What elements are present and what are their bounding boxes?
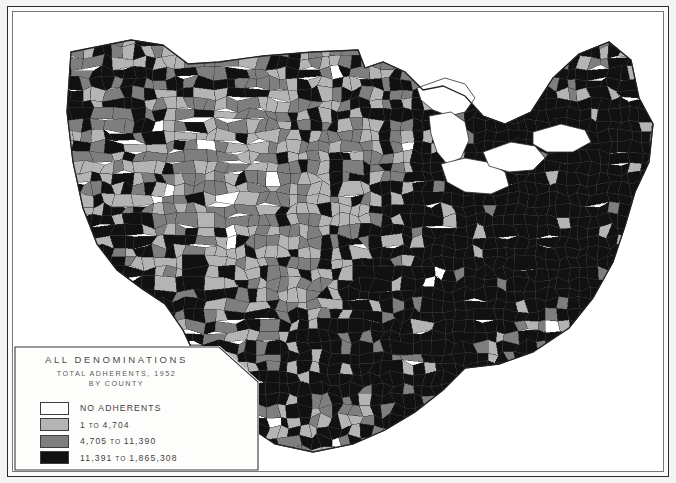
- county-polygon: [580, 308, 591, 324]
- county-polygon: [505, 35, 519, 47]
- county-polygon: [122, 212, 143, 224]
- county-polygon: [104, 276, 115, 293]
- county-polygon: [628, 392, 644, 405]
- county-polygon: [410, 45, 426, 59]
- county-polygon: [650, 402, 662, 417]
- county-polygon: [639, 203, 653, 218]
- county-polygon: [640, 444, 653, 457]
- county-polygon: [349, 33, 364, 48]
- county-polygon: [473, 382, 488, 397]
- county-polygon: [162, 319, 187, 335]
- county-polygon: [639, 181, 653, 196]
- county-polygon: [421, 33, 435, 49]
- county-polygon: [579, 449, 591, 458]
- county-polygon: [517, 55, 528, 69]
- county-polygon: [639, 300, 653, 310]
- county-polygon: [79, 239, 93, 251]
- county-polygon: [570, 413, 577, 427]
- county-polygon: [433, 181, 445, 192]
- county-polygon: [475, 434, 487, 448]
- county-polygon: [430, 244, 442, 257]
- county-polygon: [400, 57, 414, 70]
- county-polygon: [556, 413, 571, 428]
- county-polygon: [524, 371, 540, 387]
- county-polygon: [421, 437, 436, 449]
- county-polygon: [587, 342, 598, 354]
- county-polygon: [297, 119, 311, 130]
- county-polygon: [650, 449, 662, 458]
- county-polygon: [628, 363, 641, 374]
- county-polygon: [453, 425, 465, 440]
- county-polygon: [411, 445, 422, 459]
- county-polygon: [617, 339, 632, 354]
- county-polygon: [504, 383, 518, 397]
- county-polygon: [436, 417, 445, 429]
- county-polygon: [142, 276, 155, 291]
- county-polygon: [431, 54, 446, 70]
- legend-swatch-mid: [40, 435, 69, 448]
- county-polygon: [487, 434, 498, 447]
- county-polygon: [174, 55, 185, 70]
- legend-low-max: 4,704: [103, 420, 130, 430]
- county-polygon: [59, 318, 83, 334]
- county-polygon: [628, 373, 642, 386]
- county-polygon: [514, 101, 526, 112]
- county-polygon: [611, 445, 623, 460]
- county-polygon: [536, 69, 548, 81]
- county-polygon: [619, 35, 628, 50]
- legend-label-no-adherents: NO ADHERENTS: [80, 403, 162, 413]
- county-polygon: [463, 393, 473, 409]
- county-polygon: [257, 33, 270, 49]
- county-polygon: [443, 54, 454, 70]
- county-polygon: [628, 37, 651, 45]
- county-polygon: [640, 247, 653, 259]
- county-polygon: [555, 204, 570, 218]
- county-polygon: [565, 363, 579, 376]
- county-polygon: [649, 234, 661, 249]
- county-polygon: [298, 247, 311, 259]
- county-polygon: [123, 332, 134, 343]
- county-polygon: [464, 437, 476, 449]
- county-polygon: [568, 437, 580, 451]
- county-polygon: [649, 289, 663, 300]
- county-polygon: [628, 436, 640, 445]
- county-polygon: [92, 265, 105, 279]
- county-polygon: [546, 67, 560, 78]
- county-polygon: [556, 37, 567, 47]
- legend-item-high[interactable]: 11,391 TO 1,865,308: [40, 450, 178, 466]
- county-polygon: [629, 226, 641, 237]
- legend-item-low[interactable]: 1 TO 4,704: [40, 417, 178, 433]
- county-polygon: [454, 310, 468, 321]
- county-polygon: [619, 276, 640, 292]
- county-polygon: [473, 86, 487, 102]
- county-polygon: [416, 34, 426, 47]
- county-polygon: [648, 203, 662, 218]
- county-polygon: [370, 444, 383, 461]
- county-polygon: [621, 445, 631, 460]
- county-polygon: [185, 228, 198, 236]
- county-polygon: [154, 276, 177, 293]
- county-polygon: [497, 423, 509, 438]
- county-polygon: [505, 424, 515, 437]
- county-polygon: [514, 88, 526, 101]
- county-polygon: [545, 375, 560, 386]
- legend-item-no-adherents[interactable]: NO ADHERENTS: [40, 400, 178, 416]
- county-polygon: [555, 54, 569, 69]
- county-polygon: [608, 372, 620, 384]
- county-polygon: [359, 291, 369, 300]
- county-polygon: [528, 54, 538, 69]
- county-polygon: [266, 361, 280, 371]
- county-polygon: [256, 288, 267, 303]
- county-polygon: [329, 160, 343, 173]
- county-polygon: [463, 424, 477, 439]
- county-polygon: [432, 446, 443, 460]
- county-polygon: [105, 297, 116, 313]
- county-polygon: [598, 354, 612, 363]
- county-polygon: [484, 45, 494, 58]
- county-polygon: [503, 407, 516, 418]
- county-polygon: [268, 33, 291, 46]
- legend-entries: NO ADHERENTS 1 TO 4,704 4,705 TO 11,390 …: [40, 400, 178, 466]
- county-polygon: [320, 249, 333, 261]
- legend-item-mid[interactable]: 4,705 TO 11,390: [40, 433, 178, 449]
- county-polygon: [600, 424, 610, 439]
